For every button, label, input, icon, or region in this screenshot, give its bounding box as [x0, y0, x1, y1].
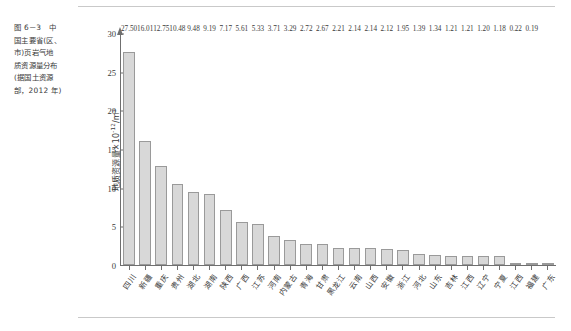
x-axis-tick — [185, 266, 201, 270]
x-axis-category-label: 江苏 — [249, 271, 267, 291]
x-axis-tick-mark — [435, 266, 436, 270]
bar-value-label: 3.71 — [268, 25, 281, 33]
bar-column: 0.22 — [508, 34, 524, 265]
x-axis-tick-mark — [370, 266, 371, 270]
bar: 9.48 — [188, 192, 200, 265]
y-axis-tick-label: 5 — [98, 222, 120, 232]
x-axis-category-label: 湖南 — [200, 271, 218, 291]
x-axis-category-label: 青海 — [297, 271, 315, 291]
bar: 5.61 — [236, 222, 248, 265]
bar: 2.72 — [300, 244, 312, 265]
bar-column: 2.14 — [347, 34, 363, 265]
x-axis-category-label: 广西 — [232, 271, 250, 291]
x-axis-label-slot: 湖北 — [185, 271, 201, 323]
x-axis-tick — [524, 266, 540, 270]
bar-value-label: 2.14 — [364, 25, 377, 33]
x-axis-category-label: 吉林 — [442, 271, 460, 291]
x-axis-tick-mark — [467, 266, 468, 270]
y-axis-title-exponent: -12 — [110, 123, 116, 133]
x-axis-tick-mark — [306, 266, 307, 270]
bar: 9.19 — [204, 194, 216, 265]
bar-column: 27.50 — [121, 34, 137, 265]
x-axis-category-label: 安徽 — [377, 271, 395, 291]
x-axis-tick-mark — [531, 266, 532, 270]
x-axis-category-label: 江西 — [506, 271, 524, 291]
bar-value-label: 1.20 — [477, 25, 490, 33]
caption-line: 部，2012 年) — [14, 85, 72, 98]
x-axis-tick-mark — [402, 266, 403, 270]
x-axis-tick — [282, 266, 298, 270]
bar: 2.14 — [349, 248, 361, 265]
x-axis-tick-mark — [419, 266, 420, 270]
x-axis-tick-mark — [241, 266, 242, 270]
x-axis-tick — [443, 266, 459, 270]
x-axis-category-label: 陕西 — [216, 271, 234, 291]
x-axis-label-slot: 贵州 — [169, 271, 185, 323]
x-axis-label-slot: 陕西 — [218, 271, 234, 323]
bar: 1.39 — [413, 254, 425, 265]
bar-value-label: 16.01 — [137, 25, 153, 33]
bar-value-label: 0.19 — [525, 25, 538, 33]
x-axis-tick — [314, 266, 330, 270]
y-axis-tick-label: 30 — [98, 29, 120, 39]
bar: 2.12 — [381, 249, 393, 265]
x-axis-label-slot: 江西 — [508, 271, 524, 323]
x-axis-label-slot: 浙江 — [395, 271, 411, 323]
x-axis-tick-mark — [451, 266, 452, 270]
x-axis-tick-mark — [290, 266, 291, 270]
x-axis-category-label: 山西 — [361, 271, 379, 291]
bar-column: 1.20 — [475, 34, 491, 265]
bar-value-label: 2.14 — [348, 25, 361, 33]
x-axis-label-slot: 新疆 — [137, 271, 153, 323]
bar: 3.29 — [284, 240, 296, 265]
x-axis-tick — [330, 266, 346, 270]
bar: 16.01 — [139, 141, 151, 265]
x-axis-label-slot: 吉林 — [443, 271, 459, 323]
bar-value-label: 2.21 — [332, 25, 345, 33]
bar-column — [540, 34, 556, 265]
x-axis-tick — [202, 266, 218, 270]
y-axis-title-base: 地质资源量×10 — [112, 133, 121, 191]
bar-value-label: 2.72 — [300, 25, 313, 33]
bar-value-label: 1.21 — [445, 25, 458, 33]
x-axis-category-label: 河北 — [410, 271, 428, 291]
bar: 2.14 — [365, 248, 377, 265]
x-axis-tick — [379, 266, 395, 270]
bar: 5.33 — [252, 224, 264, 265]
bar-value-label: 0.22 — [509, 25, 522, 33]
x-axis-tick — [218, 266, 234, 270]
x-axis-tick — [475, 266, 491, 270]
x-axis-category-labels: 四川新疆重庆贵州湖北湖南陕西广西江苏河南内蒙古青海甘肃黑龙江云南山西安徽浙江河北… — [121, 271, 556, 323]
x-axis-label-slot: 安徽 — [379, 271, 395, 323]
x-axis-tick — [492, 266, 508, 270]
bar-column: 2.21 — [330, 34, 346, 265]
bar-column: 2.12 — [379, 34, 395, 265]
bar-value-label: 3.29 — [284, 25, 297, 33]
caption-line: 市)页岩气地 — [14, 47, 72, 60]
bar-value-label: 5.33 — [252, 25, 265, 33]
x-axis-category-label: 福建 — [522, 271, 540, 291]
x-axis-label-slot: 辽宁 — [475, 271, 491, 323]
y-axis-tick-label: 0 — [98, 261, 120, 271]
bar: 1.34 — [429, 255, 441, 265]
bar: 1.95 — [397, 250, 409, 265]
x-axis-category-label: 江西 — [458, 271, 476, 291]
x-axis-category-label: 广东 — [538, 271, 556, 291]
x-axis-label-slot: 黑龙江 — [330, 271, 346, 323]
x-axis-label-slot: 湖南 — [202, 271, 218, 323]
bar-column: 1.34 — [427, 34, 443, 265]
bar-column: 5.61 — [234, 34, 250, 265]
x-axis-category-label: 云南 — [345, 271, 363, 291]
x-axis-label-slot: 广西 — [234, 271, 250, 323]
x-axis-label-slot: 宁夏 — [492, 271, 508, 323]
x-axis-label-slot: 河南 — [266, 271, 282, 323]
x-axis-label-slot: 云南 — [347, 271, 363, 323]
bar: 2.21 — [333, 248, 345, 265]
x-axis-tick — [508, 266, 524, 270]
x-axis-category-label: 辽宁 — [474, 271, 492, 291]
x-axis-tick-mark — [145, 266, 146, 270]
bar-column: 2.14 — [363, 34, 379, 265]
bar-column: 3.71 — [266, 34, 282, 265]
x-axis-tick-mark — [274, 266, 275, 270]
y-axis-tick-label: 15 — [98, 145, 120, 155]
